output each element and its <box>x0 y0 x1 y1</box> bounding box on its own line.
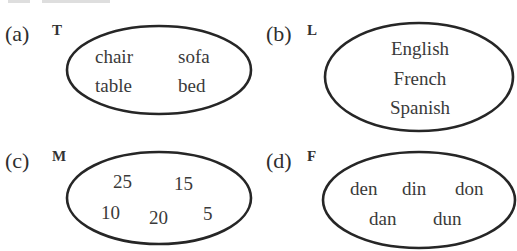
set-a: (a) T chair sofa table bed <box>5 21 251 114</box>
set-c-ellipse <box>67 152 251 244</box>
set-b-member: English <box>391 38 450 59</box>
set-b: (b) L English French Spanish <box>266 21 513 131</box>
set-a-ellipse <box>67 26 251 114</box>
set-c-member: 5 <box>203 203 213 224</box>
set-d: (d) F den din don dan dun <box>266 148 515 248</box>
cutoff-header-text <box>8 0 110 3</box>
set-name-b: L <box>307 22 317 38</box>
set-d-member: don <box>455 178 484 199</box>
set-name-d: F <box>307 148 316 164</box>
set-diagrams-page: (a) T chair sofa table bed (b) L English… <box>0 0 517 251</box>
set-a-member: chair <box>95 46 134 67</box>
part-label-a: (a) <box>5 21 29 46</box>
set-b-member: French <box>394 68 447 89</box>
set-c: (c) M 25 15 10 20 5 <box>5 148 251 244</box>
part-label-d: (d) <box>266 148 292 173</box>
set-diagrams-canvas: (a) T chair sofa table bed (b) L English… <box>0 0 517 251</box>
set-d-member: din <box>402 178 427 199</box>
set-b-member: Spanish <box>390 97 451 118</box>
set-a-member: sofa <box>178 46 210 67</box>
set-a-member: bed <box>178 75 206 96</box>
set-c-member: 15 <box>174 173 193 194</box>
set-name-c: M <box>52 148 66 164</box>
set-d-member: den <box>350 178 378 199</box>
part-label-c: (c) <box>5 148 29 173</box>
set-d-ellipse <box>323 152 515 248</box>
set-name-a: T <box>52 22 62 38</box>
set-c-member: 10 <box>101 202 120 223</box>
set-d-member: dun <box>433 208 462 229</box>
set-a-member: table <box>95 75 132 96</box>
set-c-member: 20 <box>149 207 168 228</box>
set-c-member: 25 <box>113 171 132 192</box>
part-label-b: (b) <box>266 21 292 46</box>
set-d-member: dan <box>369 208 397 229</box>
